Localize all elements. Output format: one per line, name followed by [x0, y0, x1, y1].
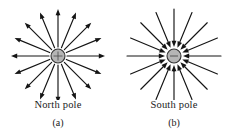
panel-south-pole: South pole (b): [116, 0, 232, 135]
field-arrow-head: [95, 38, 102, 43]
field-arrow-head: [71, 13, 76, 20]
field-arrow-shaft: [61, 64, 73, 93]
field-arrow-head: [11, 54, 17, 59]
field-arrow-head: [95, 69, 102, 74]
field-arrow-shaft: [64, 62, 86, 84]
field-arrow-shaft: [29, 62, 51, 84]
field-arrow-head: [182, 59, 189, 64]
field-arrow-shaft: [156, 70, 168, 99]
field-arrow-shaft: [156, 13, 168, 42]
field-arrow-shaft: [180, 70, 192, 99]
field-arrow-shaft: [141, 67, 163, 89]
field-arrow-shaft: [66, 40, 95, 52]
field-arrow-head: [166, 41, 171, 48]
field-arrow-shaft: [188, 62, 217, 74]
field-arrow-shaft: [42, 64, 54, 93]
field-arrow-shaft: [131, 38, 160, 50]
field-arrow-shaft: [29, 27, 51, 49]
field-arrow-head: [172, 41, 177, 47]
field-arrow-shaft: [188, 38, 217, 50]
field-arrow-head: [159, 54, 165, 59]
south-pole-field-diagram: [116, 0, 232, 100]
field-arrow-head: [182, 48, 189, 53]
field-arrow-shaft: [64, 27, 86, 49]
field-arrow-shaft: [42, 18, 54, 47]
field-arrow-shaft: [180, 13, 192, 42]
panel-north-pole: North pole (a): [0, 0, 116, 135]
field-arrow-head: [15, 69, 22, 74]
south-pole-label: South pole: [116, 99, 232, 111]
north-pole-label: North pole: [0, 99, 116, 111]
field-arrow-shaft: [185, 23, 207, 45]
field-arrow-shaft: [185, 67, 207, 89]
field-arrow-head: [40, 13, 45, 20]
field-arrow-head: [15, 38, 22, 43]
field-arrow-head: [159, 48, 166, 53]
panel-a-sublabel: (a): [0, 117, 116, 129]
field-arrow-shaft: [141, 23, 163, 45]
north-pole-field-diagram: [0, 0, 116, 100]
field-arrow-shaft: [61, 18, 73, 47]
field-arrow-head: [177, 64, 182, 71]
panel-b-sublabel: (b): [116, 117, 232, 129]
field-arrow-head: [56, 9, 61, 15]
magnetic-pole-field-figure: North pole (a) South pole (b): [0, 0, 232, 135]
field-arrow-head: [159, 59, 166, 64]
field-arrow-shaft: [20, 59, 49, 71]
field-arrow-head: [166, 64, 171, 71]
field-arrow-shaft: [20, 40, 49, 52]
field-arrow-head: [177, 41, 182, 48]
field-arrow-shaft: [131, 62, 160, 74]
field-arrow-head: [99, 54, 105, 59]
field-arrow-head: [183, 54, 189, 59]
field-arrow-shaft: [66, 59, 95, 71]
field-arrow-head: [172, 65, 177, 71]
